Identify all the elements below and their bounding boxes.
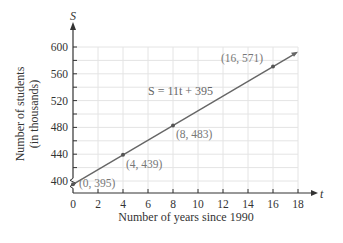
point-label: (16, 571) — [221, 52, 263, 65]
x-tick-label: 0 — [70, 198, 76, 210]
data-line — [73, 52, 298, 185]
y-axis-title-line2: (in thousands) — [27, 80, 41, 148]
x-tick-label: 2 — [95, 198, 101, 210]
axes — [70, 22, 318, 196]
grid-lines — [73, 47, 298, 193]
y-tick-label: 400 — [51, 175, 69, 187]
x-tick-label: 4 — [120, 198, 126, 210]
data-point — [271, 64, 275, 68]
data-point — [121, 153, 125, 157]
y-tick-label: 440 — [51, 148, 69, 160]
x-axis-arrow-icon — [311, 190, 318, 196]
x-tick-label: 10 — [192, 198, 204, 210]
x-tick-label: 8 — [170, 198, 176, 210]
y-tick-label: 560 — [51, 68, 69, 80]
y-axis-title-line1: Number of students — [13, 66, 27, 161]
x-tick-label: 6 — [145, 198, 151, 210]
y-axis-variable: S — [70, 9, 76, 23]
data-point — [71, 182, 75, 186]
x-tick-label: 14 — [242, 198, 254, 210]
regression-line — [73, 53, 296, 184]
x-tick-label: 16 — [267, 198, 279, 210]
y-axis-arrow-icon — [70, 22, 76, 30]
x-tick-label: 18 — [292, 198, 304, 210]
point-label: (8, 483) — [176, 128, 213, 141]
data-point — [171, 123, 175, 127]
point-label: (0, 395) — [79, 177, 116, 190]
y-tick-label: 520 — [51, 95, 69, 107]
point-label: (4, 439) — [126, 158, 163, 171]
x-axis-variable: t — [320, 187, 324, 201]
y-tick-label: 480 — [51, 121, 69, 133]
line-chart: 024681012141618400440480520560600 (0, 39… — [0, 0, 343, 243]
x-tick-label: 12 — [217, 198, 229, 210]
y-tick-label: 600 — [51, 41, 69, 53]
x-axis-title: Number of years since 1990 — [118, 210, 253, 224]
equation-label: S = 11t + 395 — [148, 84, 213, 98]
